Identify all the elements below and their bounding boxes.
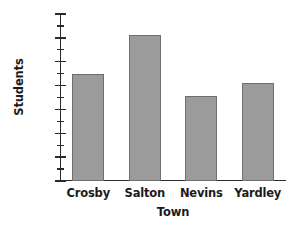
y-tick-minor (57, 168, 64, 169)
y-tick-minor (57, 97, 64, 98)
y-tick-major (55, 61, 66, 62)
y-tick-major (55, 85, 66, 86)
y-tick-major (55, 109, 66, 110)
x-axis-title: Town (60, 205, 286, 219)
y-tick-minor (57, 73, 64, 74)
bar-crosby (72, 74, 104, 181)
y-tick-minor (57, 145, 64, 146)
plot-area: 01,0002,0003,0004,0005,0006,0007,000 Cro… (60, 14, 286, 181)
y-tick-minor (57, 121, 64, 122)
y-tick-major (55, 180, 66, 181)
y-tick-minor (57, 25, 64, 26)
y-tick-major (55, 13, 66, 14)
y-tick-minor (57, 49, 64, 50)
bar-nevins (185, 96, 217, 181)
bar-chart: Students 01,0002,0003,0004,0005,0006,000… (0, 0, 292, 225)
bar-yardley (242, 83, 274, 181)
y-tick-major (55, 156, 66, 157)
y-tick-major (55, 37, 66, 38)
y-tick-major (55, 133, 66, 134)
y-axis-title: Students (12, 37, 26, 137)
x-tick-label-yardley: Yardley (221, 186, 292, 200)
bar-salton (129, 35, 161, 181)
